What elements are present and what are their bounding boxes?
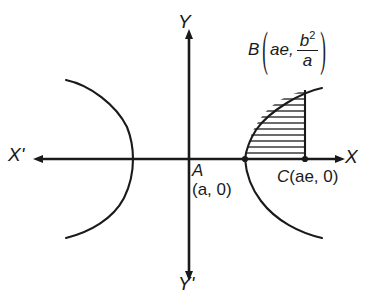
point-c-letter: C	[277, 167, 289, 186]
left-paren-glyph: (	[262, 24, 268, 76]
fraction-numerator: b2	[297, 30, 319, 50]
fraction-numerator-base: b	[300, 31, 309, 50]
y-axis-negative-label: Y'	[178, 274, 194, 292]
x-axis-label: X	[345, 147, 358, 167]
point-c-coordinates: (ae, 0)	[289, 167, 338, 186]
point-a-coordinates: (a, 0)	[192, 181, 232, 199]
point-b-first-coordinate: ae,	[270, 41, 294, 59]
fraction-denominator: a	[300, 51, 315, 69]
hatched-region	[245, 90, 305, 159]
fraction-numerator-exponent: 2	[309, 29, 315, 41]
point-label-a: A (a, 0)	[192, 162, 232, 199]
point-label-c: C(ae, 0)	[277, 168, 338, 186]
point-marker-a	[242, 156, 248, 162]
right-paren-glyph: )	[320, 24, 326, 76]
point-a-letter: A	[192, 162, 232, 180]
y-axis-label: Y	[178, 12, 191, 32]
point-marker-c	[302, 156, 308, 162]
point-b-letter: B	[248, 41, 259, 59]
fraction-b-squared-over-a: b2 a	[297, 30, 319, 69]
x-axis-negative-label: X'	[8, 145, 24, 165]
point-label-b: B ( ae, b2 a )	[248, 30, 328, 69]
